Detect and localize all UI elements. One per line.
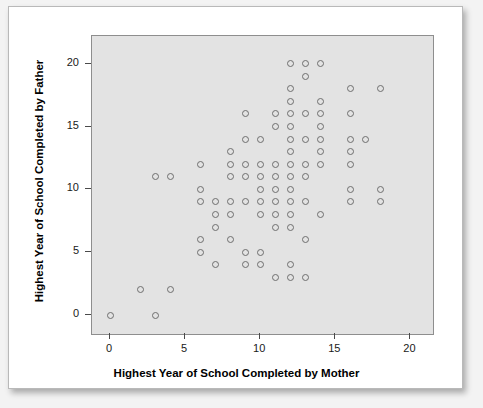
data-point	[197, 249, 204, 256]
data-point	[302, 136, 309, 143]
data-point	[212, 211, 219, 218]
y-tick-mark	[85, 126, 91, 127]
y-tick-label: 5	[49, 244, 79, 256]
data-point	[317, 211, 324, 218]
data-point	[272, 173, 279, 180]
data-point	[107, 312, 114, 319]
data-point	[212, 198, 219, 205]
data-point	[242, 173, 249, 180]
y-tick-mark	[85, 314, 91, 315]
x-tick-label: 15	[319, 342, 349, 354]
data-point	[272, 186, 279, 193]
data-point	[167, 286, 174, 293]
data-point	[257, 173, 264, 180]
data-point	[302, 274, 309, 281]
x-tick-label: 10	[244, 342, 274, 354]
data-point	[287, 211, 294, 218]
data-point	[287, 261, 294, 268]
data-point	[257, 136, 264, 143]
data-point	[257, 261, 264, 268]
data-point	[167, 173, 174, 180]
data-point	[317, 123, 324, 130]
data-point	[317, 98, 324, 105]
data-point	[287, 198, 294, 205]
data-point	[302, 236, 309, 243]
data-point	[377, 85, 384, 92]
data-point	[242, 136, 249, 143]
data-point	[137, 286, 144, 293]
y-tick-mark	[85, 251, 91, 252]
data-point	[257, 161, 264, 168]
data-point	[287, 161, 294, 168]
data-point	[317, 161, 324, 168]
data-point	[302, 73, 309, 80]
data-point	[257, 211, 264, 218]
data-point	[227, 211, 234, 218]
data-point	[212, 261, 219, 268]
chart-card: 0510152005101520 Highest Year of School …	[8, 6, 463, 389]
data-point	[272, 274, 279, 281]
x-tick-label: 0	[94, 342, 124, 354]
data-point	[227, 236, 234, 243]
y-tick-label: 20	[49, 56, 79, 68]
data-point	[227, 173, 234, 180]
data-point	[302, 198, 309, 205]
plot-panel	[91, 35, 434, 335]
data-point	[347, 110, 354, 117]
data-point	[287, 224, 294, 231]
data-point	[287, 136, 294, 143]
x-axis-label: Highest Year of School Completed by Moth…	[9, 367, 464, 379]
data-point	[242, 110, 249, 117]
data-point	[317, 148, 324, 155]
data-point	[197, 186, 204, 193]
data-point	[362, 136, 369, 143]
scatter-points-layer	[92, 36, 433, 334]
data-point	[242, 161, 249, 168]
data-point	[347, 148, 354, 155]
data-point	[152, 173, 159, 180]
data-point	[227, 198, 234, 205]
y-tick-mark	[85, 188, 91, 189]
data-point	[347, 198, 354, 205]
data-point	[242, 249, 249, 256]
data-point	[317, 60, 324, 67]
y-tick-label: 0	[49, 307, 79, 319]
x-tick-mark	[184, 333, 185, 339]
x-tick-label: 20	[394, 342, 424, 354]
data-point	[377, 198, 384, 205]
x-tick-mark	[259, 333, 260, 339]
screenshot-root: 0510152005101520 Highest Year of School …	[0, 0, 483, 408]
data-point	[347, 161, 354, 168]
x-tick-mark	[109, 333, 110, 339]
data-point	[347, 186, 354, 193]
data-point	[287, 173, 294, 180]
data-point	[347, 136, 354, 143]
data-point	[272, 123, 279, 130]
data-point	[272, 110, 279, 117]
x-tick-mark	[334, 333, 335, 339]
data-point	[272, 211, 279, 218]
data-point	[347, 85, 354, 92]
data-point	[227, 148, 234, 155]
data-point	[302, 110, 309, 117]
y-tick-mark	[85, 63, 91, 64]
data-point	[197, 198, 204, 205]
data-point	[272, 198, 279, 205]
data-point	[212, 224, 219, 231]
data-point	[302, 161, 309, 168]
x-tick-mark	[409, 333, 410, 339]
data-point	[272, 161, 279, 168]
data-point	[242, 261, 249, 268]
data-point	[287, 85, 294, 92]
y-axis-label: Highest Year of School Completed by Fath…	[33, 11, 45, 351]
data-point	[152, 312, 159, 319]
data-point	[287, 274, 294, 281]
data-point	[302, 173, 309, 180]
data-point	[287, 123, 294, 130]
data-point	[317, 136, 324, 143]
data-point	[257, 198, 264, 205]
x-tick-label: 5	[169, 342, 199, 354]
data-point	[257, 186, 264, 193]
data-point	[257, 249, 264, 256]
data-point	[287, 148, 294, 155]
